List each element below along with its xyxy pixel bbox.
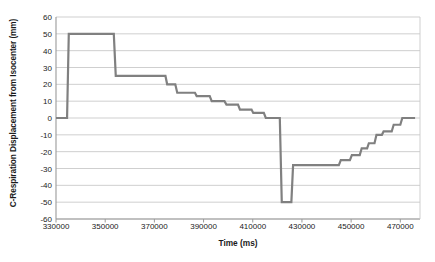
plot-area <box>0 0 435 262</box>
x-axis-title: Time (ms) <box>56 238 420 248</box>
respiration-displacement-chart: C-Respiration Displacement from Isocente… <box>0 0 435 262</box>
plot-svg <box>0 0 435 262</box>
gridlines-group <box>56 17 420 219</box>
